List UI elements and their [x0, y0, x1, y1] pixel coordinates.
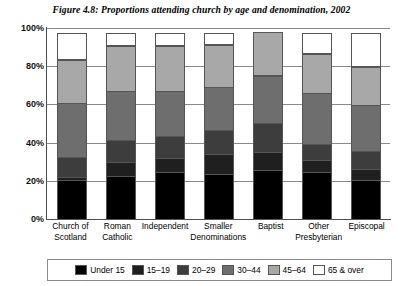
legend-swatch — [132, 265, 144, 275]
bar-segment[interactable] — [106, 33, 136, 46]
legend-swatch — [222, 265, 234, 275]
bar-segment[interactable] — [57, 103, 87, 158]
legend-item[interactable]: 20–29 — [177, 265, 215, 275]
legend-label: 65 & over — [328, 265, 364, 275]
bar-segment[interactable] — [253, 76, 283, 124]
legend-label: 15–19 — [147, 265, 170, 275]
bar-segment[interactable] — [155, 172, 185, 220]
legend-swatch — [313, 265, 325, 275]
bar-segment[interactable] — [57, 60, 87, 104]
y-tick-label: 20% — [0, 176, 44, 186]
x-tick-label: Church of Scotland — [47, 221, 94, 251]
legend-item[interactable]: 65 & over — [313, 265, 364, 275]
legend-label: 30–44 — [237, 265, 260, 275]
bar-segment[interactable] — [302, 33, 332, 54]
bar-segment[interactable] — [302, 172, 332, 220]
legend-swatch — [268, 265, 280, 275]
stacked-bar[interactable] — [155, 33, 185, 219]
y-tick-label: 100% — [0, 23, 44, 33]
legend-swatch — [177, 265, 189, 275]
bar-segment[interactable] — [351, 180, 381, 220]
bar-segment[interactable] — [302, 54, 332, 94]
x-tick-label: Independent — [141, 221, 190, 251]
bar-segment[interactable] — [204, 33, 234, 44]
x-tick-label: Episcopal — [343, 221, 390, 251]
legend-label: 20–29 — [192, 265, 215, 275]
bar-segment[interactable] — [155, 158, 185, 173]
bar-segment[interactable] — [57, 157, 87, 178]
bar-segment[interactable] — [351, 151, 381, 170]
y-tick-label: 0% — [0, 214, 44, 224]
stacked-bar[interactable] — [253, 32, 283, 219]
bar-segment[interactable] — [302, 160, 332, 173]
figure-container: Figure 4.8: Proportions attending church… — [0, 0, 403, 286]
x-tick-label: Roman Catholic — [94, 221, 141, 251]
stacked-bar[interactable] — [204, 33, 234, 219]
bar-slot — [47, 28, 96, 219]
bar-segment[interactable] — [155, 136, 185, 159]
legend-item[interactable]: 15–19 — [132, 265, 170, 275]
bar-segment[interactable] — [57, 33, 87, 60]
bar-slot — [145, 28, 194, 219]
y-tick-label: 40% — [0, 138, 44, 148]
x-axis-category-labels: Church of ScotlandRoman CatholicIndepend… — [47, 221, 390, 251]
bar-segment[interactable] — [155, 33, 185, 46]
bar-segment[interactable] — [204, 87, 234, 131]
stacked-bar[interactable] — [351, 33, 381, 219]
legend-swatch — [75, 265, 87, 275]
bar-segment[interactable] — [253, 32, 283, 76]
bar-segment[interactable] — [155, 46, 185, 92]
bar-segment[interactable] — [204, 174, 234, 220]
stacked-bar[interactable] — [57, 33, 87, 219]
legend-item[interactable]: 45–64 — [268, 265, 306, 275]
stacked-bar[interactable] — [302, 33, 332, 219]
bar-slot — [292, 28, 341, 219]
bar-segment[interactable] — [155, 91, 185, 137]
bar-segment[interactable] — [302, 93, 332, 145]
bar-segment[interactable] — [106, 91, 136, 141]
bar-slot — [243, 28, 292, 219]
bar-segment[interactable] — [106, 176, 136, 220]
bar-segment[interactable] — [351, 33, 381, 67]
bar-segment[interactable] — [351, 67, 381, 105]
bar-slot — [96, 28, 145, 219]
y-tick-label: 80% — [0, 61, 44, 71]
chart-title: Figure 4.8: Proportions attending church… — [0, 4, 403, 15]
chart-legend: Under 1515–1920–2930–4445–6465 & over — [47, 259, 392, 281]
x-tick-label: Smaller Denominations — [189, 221, 247, 251]
bar-segment[interactable] — [351, 105, 381, 153]
x-tick-label: Other Presbyterian — [294, 221, 343, 251]
legend-label: Under 15 — [90, 265, 124, 275]
legend-item[interactable]: Under 15 — [75, 265, 124, 275]
bar-segment[interactable] — [204, 45, 234, 89]
y-axis-tick-labels: 0%20%40%60%80%100% — [0, 28, 44, 219]
bar-segment[interactable] — [106, 140, 136, 163]
bar-segment[interactable] — [302, 144, 332, 161]
bar-segment[interactable] — [57, 180, 87, 220]
x-tick-label: Baptist — [247, 221, 294, 251]
bar-segment[interactable] — [106, 162, 136, 177]
bar-group — [47, 28, 390, 219]
stacked-bar[interactable] — [106, 33, 136, 219]
legend-label: 45–64 — [283, 265, 306, 275]
bar-segment[interactable] — [106, 46, 136, 92]
legend-item[interactable]: 30–44 — [222, 265, 260, 275]
bar-segment[interactable] — [253, 152, 283, 171]
bar-segment[interactable] — [204, 130, 234, 155]
y-tick-label: 60% — [0, 99, 44, 109]
bar-slot — [341, 28, 390, 219]
bar-slot — [194, 28, 243, 219]
bar-segment[interactable] — [253, 170, 283, 220]
bar-segment[interactable] — [204, 154, 234, 175]
bar-segment[interactable] — [253, 123, 283, 154]
